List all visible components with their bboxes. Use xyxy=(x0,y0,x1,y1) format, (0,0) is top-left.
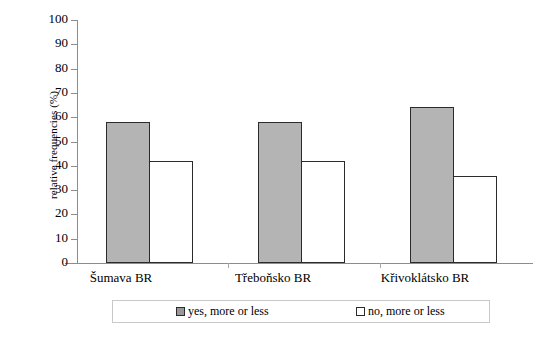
plot-area: 100 90 80 70 60 50 40 30 xyxy=(77,20,532,263)
legend-swatch-gray-icon xyxy=(176,307,185,316)
y-tick-label: 20 xyxy=(55,205,68,221)
x-category-label-trebonsko: Třeboňsko BR xyxy=(188,270,358,286)
bar-krivoklatsko-no xyxy=(453,176,497,263)
bar-trebonsko-yes xyxy=(258,122,302,263)
category-separator xyxy=(380,263,381,268)
bar-trebonsko-no xyxy=(301,161,345,263)
bar-chart-figure: relative frequencies (%) 100 90 80 70 60… xyxy=(0,0,553,339)
category-separator xyxy=(228,263,229,268)
bar-krivoklatsko-yes xyxy=(410,107,454,263)
chart-legend: yes, more or less no, more or less xyxy=(112,300,490,323)
y-axis-line xyxy=(77,20,78,264)
y-tick-label: 30 xyxy=(55,181,68,197)
y-tick-label: 80 xyxy=(55,60,68,76)
y-tick-label: 70 xyxy=(55,84,68,100)
y-tick-label: 90 xyxy=(55,35,68,51)
y-tick-label: 60 xyxy=(55,108,68,124)
legend-item-no: no, more or less xyxy=(356,304,445,319)
legend-item-yes: yes, more or less xyxy=(176,304,269,319)
y-tick-label: 40 xyxy=(55,157,68,173)
legend-label-yes: yes, more or less xyxy=(188,304,269,319)
y-tick-label: 10 xyxy=(55,230,68,246)
legend-swatch-white-icon xyxy=(356,307,365,316)
y-tick-label: 0 xyxy=(62,254,69,270)
y-tick-label: 100 xyxy=(49,11,69,27)
x-category-label-krivoklatsko: Křivoklátsko BR xyxy=(340,270,510,286)
x-category-label-sumava: Šumava BR xyxy=(36,270,206,286)
legend-label-no: no, more or less xyxy=(368,304,445,319)
bar-sumava-yes xyxy=(106,122,150,263)
x-axis-line xyxy=(65,263,533,264)
y-tick-label: 50 xyxy=(55,133,68,149)
bar-sumava-no xyxy=(149,161,193,263)
